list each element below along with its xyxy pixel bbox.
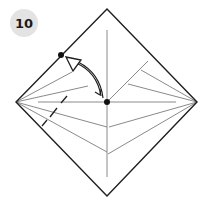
fold-arrow-icon bbox=[66, 57, 103, 98]
crease-left-lower-2 bbox=[16, 102, 107, 152]
valley-fold-line bbox=[42, 96, 67, 126]
crease-right-upper-1 bbox=[141, 70, 197, 102]
center-dot bbox=[104, 99, 110, 105]
target-dot bbox=[58, 52, 64, 58]
origami-diagram bbox=[0, 0, 212, 209]
crease-right-lower-1 bbox=[109, 102, 197, 127]
crease-right-lower-2 bbox=[108, 102, 197, 154]
crease-left-upper-1 bbox=[16, 72, 72, 102]
crease-left-upper-2 bbox=[16, 86, 88, 102]
crease-left-lower-1 bbox=[16, 102, 107, 127]
crease-center-diagonal bbox=[107, 61, 148, 102]
crease-right-upper-2 bbox=[128, 84, 197, 102]
